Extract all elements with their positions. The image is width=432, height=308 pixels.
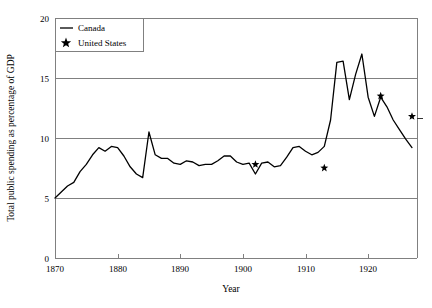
x-tick-label-1920: 1920: [359, 264, 378, 274]
y-axis-title: Total public spending as percentage of G…: [6, 54, 16, 222]
line-chart: 187018801890190019101920 05101520 Canada…: [0, 0, 432, 308]
legend-label-united-states: United States: [78, 38, 127, 48]
y-tick-label-10: 10: [40, 134, 50, 144]
chart-legend: Canada United States: [55, 18, 143, 51]
y-tick-label-5: 5: [45, 194, 50, 204]
legend-label-canada: Canada: [78, 23, 105, 33]
x-tick-label-1870: 1870: [46, 264, 65, 274]
x-tick-label-1900: 1900: [234, 264, 253, 274]
y-tick-label-20: 20: [40, 14, 50, 24]
y-tick-label-0: 0: [45, 254, 50, 264]
x-tick-label-1910: 1910: [297, 264, 316, 274]
x-tick-label-1890: 1890: [171, 264, 190, 274]
x-axis-title: Year: [222, 284, 240, 294]
chart-figure: 187018801890190019101920 05101520 Canada…: [0, 0, 432, 308]
x-tick-label-1880: 1880: [109, 264, 128, 274]
y-tick-label-15: 15: [40, 74, 50, 84]
